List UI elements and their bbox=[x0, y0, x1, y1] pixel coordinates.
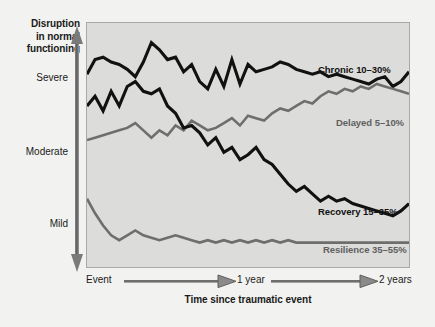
series-label-chronic: Chronic 10–30% bbox=[318, 64, 391, 75]
x-axis: Event 1 year 2 years bbox=[86, 274, 421, 292]
x-tick-label-1year: 1 year bbox=[237, 274, 265, 285]
series-line-recovery bbox=[87, 82, 409, 216]
plot-area: Chronic 10–30% Delayed 5–10% Recovery 15… bbox=[86, 22, 410, 268]
x-tick-label-event: Event bbox=[86, 274, 112, 285]
y-tick-label-severe: Severe bbox=[8, 71, 71, 84]
series-line-delayed bbox=[87, 84, 409, 140]
x-axis-title: Time since traumatic event bbox=[86, 294, 410, 305]
trauma-trajectory-chart: Disruption in normal functioning Severe … bbox=[0, 0, 435, 327]
y-axis-double-arrow-icon bbox=[70, 26, 84, 272]
y-axis-title: Disruption in normal functioning bbox=[6, 18, 80, 56]
y-tick-label-moderate: Moderate bbox=[8, 145, 71, 158]
y-tick-label-mild: Mild bbox=[8, 217, 71, 230]
series-lines-svg bbox=[87, 23, 409, 267]
x-tick-label-2years: 2 years bbox=[379, 274, 412, 285]
series-label-recovery: Recovery 15–35% bbox=[318, 206, 398, 217]
series-label-delayed: Delayed 5–10% bbox=[336, 117, 404, 128]
series-label-resilience: Resilience 35–55% bbox=[323, 244, 407, 255]
